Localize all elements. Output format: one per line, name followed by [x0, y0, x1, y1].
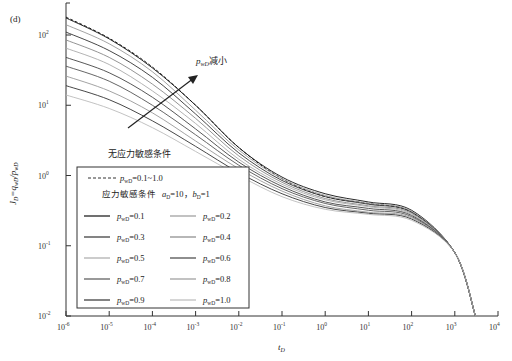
- y-tick-label: 101: [38, 99, 49, 110]
- x-tick-label: 103: [446, 321, 457, 332]
- x-axis-label: tD: [278, 342, 286, 353]
- y-tick-label: 100: [38, 170, 49, 181]
- x-ticks: 10-610-510-410-310-210-1100101102103104: [57, 311, 500, 332]
- x-tick-label: 10-1: [273, 321, 286, 332]
- legend-entry: pwD=0.1: [116, 211, 145, 222]
- legend-entry: pwD=0.8: [202, 274, 231, 285]
- legend-entry: pwD=0.4: [202, 232, 231, 243]
- legend-stress-header: 应力敏感条件aD=10，bD=1: [102, 189, 210, 200]
- x-tick-label: 10-6: [57, 321, 70, 332]
- x-tick-label: 101: [359, 321, 370, 332]
- legend-entry: pwD=0.5: [116, 253, 145, 264]
- x-tick-label: 10-3: [187, 321, 200, 332]
- no-stress-title: 无应力敏感条件: [108, 148, 171, 159]
- legend-entry: pwD=0.9: [116, 295, 145, 306]
- legend: pwD=0.1~1.0 应力敏感条件aD=10，bD=1 pwD=0.1pwD=…: [77, 167, 249, 308]
- arrow-label: pwD减小: [195, 55, 227, 67]
- x-tick-label: 10-5: [100, 321, 113, 332]
- x-tick-label: 10-2: [230, 321, 243, 332]
- legend-entry: pwD=0.2: [202, 211, 231, 222]
- chart-svg: (d) 10-610-510-410-310-210-1100101102103…: [0, 0, 512, 361]
- y-tick-label: 10-2: [38, 310, 51, 321]
- legend-entry: pwD=0.6: [202, 253, 231, 264]
- x-tick-label: 10-4: [143, 321, 156, 332]
- legend-entry: pwD=0.7: [116, 274, 145, 285]
- y-tick-label: 10-1: [38, 240, 51, 251]
- y-axis-label: JD=qwD/pwD: [8, 162, 19, 205]
- y-tick-label: 102: [38, 29, 49, 40]
- legend-entry: pwD=1.0: [202, 295, 231, 306]
- panel-label: (d): [10, 14, 21, 24]
- x-tick-label: 100: [316, 321, 327, 332]
- x-tick-label: 104: [489, 321, 500, 332]
- legend-entry: pwD=0.3: [116, 232, 145, 243]
- svg-text:JD=qwD/pwD: JD=qwD/pwD: [8, 162, 19, 205]
- x-tick-label: 102: [403, 321, 414, 332]
